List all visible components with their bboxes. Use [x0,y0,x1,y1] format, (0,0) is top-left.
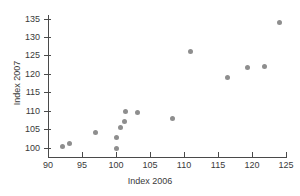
x-axis-tick-label: 105 [135,160,165,171]
x-axis-tick [150,152,151,158]
x-axis-tick [218,152,219,158]
x-axis-title: Index 2006 [0,176,300,186]
x-axis-tick-label: 125 [271,160,300,171]
x-axis-tick-label: 100 [101,160,131,171]
scatter-point [123,109,128,114]
scatter-point [170,116,175,121]
x-axis-tick-label: 110 [169,160,199,171]
x-axis-tick-label: 120 [237,160,267,171]
scatter-point [135,110,140,115]
x-axis-tick [184,152,185,158]
x-axis-tick [82,152,83,158]
scatter-point [122,119,127,124]
scatter-point [225,75,230,80]
scatter-chart: 100105110115120125130135 909510010511011… [0,0,300,196]
x-axis-tick-label: 115 [203,160,233,171]
x-axis-tick [252,152,253,158]
y-axis-tick-label: 135 [8,14,40,25]
scatter-point [67,141,72,146]
y-axis-title: Index 2007 [12,28,22,138]
x-axis-tick-label: 90 [33,160,63,171]
scatter-point [60,144,65,149]
scatter-point [114,146,119,151]
x-axis-line [48,157,286,158]
y-axis-tick-label: 100 [8,143,40,154]
x-axis-tick [116,152,117,158]
scatter-point [114,135,119,140]
plot-area [48,12,286,152]
scatter-point [277,20,282,25]
scatter-point [93,130,98,135]
scatter-point [245,65,250,70]
scatter-point [262,64,267,69]
scatter-point [188,49,193,54]
scatter-point [118,125,123,130]
x-axis-tick [48,152,49,158]
x-axis-tick-label: 95 [67,160,97,171]
x-axis-tick [286,152,287,158]
